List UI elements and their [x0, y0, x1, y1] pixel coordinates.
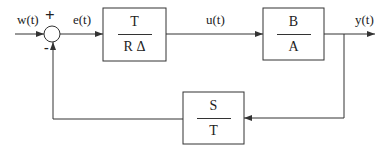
feedback-numerator: S — [210, 98, 218, 114]
minus-sign: - — [44, 41, 49, 55]
controller-denominator: R Δ — [124, 39, 146, 55]
plant-block: B A — [263, 8, 324, 60]
fraction-bar — [118, 34, 152, 35]
error-signal-label: e(t) — [73, 13, 91, 26]
fraction-bar — [277, 34, 311, 35]
control-signal-label: u(t) — [206, 13, 225, 26]
controller-block: T R Δ — [103, 8, 166, 61]
feedback-block: S T — [183, 92, 244, 144]
plus-sign: + — [45, 7, 55, 24]
plant-denominator: A — [288, 39, 298, 55]
controller-numerator: T — [130, 14, 139, 30]
feedback-denominator: T — [209, 123, 218, 139]
output-signal-label: y(t) — [355, 13, 374, 26]
plant-numerator: B — [289, 14, 298, 30]
fraction-bar — [197, 118, 231, 119]
input-signal-label: w(t) — [17, 13, 39, 26]
